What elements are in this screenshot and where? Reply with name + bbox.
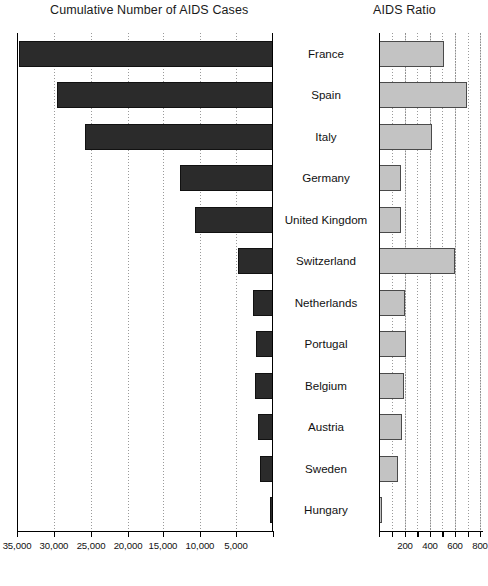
- right-chart-bar: [379, 414, 402, 440]
- country-label: Austria: [276, 421, 376, 433]
- left-chart-tick: [236, 531, 237, 537]
- country-label: Switzerland: [276, 255, 376, 267]
- country-label: France: [276, 48, 376, 60]
- country-label: Italy: [276, 131, 376, 143]
- left-chart-bar: [19, 41, 273, 67]
- left-chart-tick: [163, 531, 164, 537]
- country-label: Netherlands: [276, 297, 376, 309]
- left-chart-bar: [253, 290, 273, 316]
- left-chart-bar: [85, 124, 273, 150]
- left-chart-plot-area: [17, 33, 273, 531]
- left-chart-tick-label: 30,000: [40, 540, 69, 551]
- right-chart-bar: [379, 165, 401, 191]
- right-chart-bar: [379, 82, 467, 108]
- left-chart-x-tick-labels: 35,00030,00025,00020,00015,00010,0005,00…: [17, 540, 273, 560]
- right-chart-tick-label: 600: [447, 540, 463, 551]
- country-label: Hungary: [276, 504, 376, 516]
- right-chart-bar: [379, 248, 455, 274]
- right-gridline-minor: [468, 33, 469, 531]
- right-chart-y-axis: [379, 33, 380, 531]
- left-chart-tick: [128, 531, 129, 537]
- right-chart-bar: [379, 207, 401, 233]
- left-chart-bar: [238, 248, 273, 274]
- left-chart-right-border: [272, 33, 273, 531]
- country-label: Belgium: [276, 380, 376, 392]
- country-label: Sweden: [276, 463, 376, 475]
- right-chart-tick: [455, 531, 456, 537]
- country-label: United Kingdom: [276, 214, 376, 226]
- right-chart-title: AIDS Ratio: [373, 3, 436, 17]
- right-chart-tick-minor: [417, 531, 418, 537]
- right-gridline-major: [480, 33, 481, 531]
- right-chart-bar: [379, 331, 406, 357]
- left-chart-tick-label: 25,000: [77, 540, 106, 551]
- right-chart-tick-minor: [379, 531, 380, 537]
- country-label-column: FranceSpainItalyGermanyUnited KingdomSwi…: [276, 33, 376, 531]
- left-chart-tick-label: 35,000: [3, 540, 32, 551]
- left-gridline: [54, 33, 55, 531]
- right-chart-bar: [379, 41, 444, 67]
- left-chart-bar: [57, 82, 273, 108]
- right-chart-tick-label: 200: [397, 540, 413, 551]
- left-chart-tick: [54, 531, 55, 537]
- country-label: Portugal: [276, 338, 376, 350]
- right-chart-tick: [405, 531, 406, 537]
- country-label: Germany: [276, 172, 376, 184]
- left-chart-x-axis: [17, 531, 273, 532]
- left-chart-tick-label: 20,000: [114, 540, 143, 551]
- right-chart-bar: [379, 290, 405, 316]
- right-chart-tick-minor: [392, 531, 393, 537]
- right-chart-x-tick-labels: 200400600800: [379, 540, 483, 560]
- left-chart-bar: [195, 207, 273, 233]
- left-chart-tick-label: 10,000: [186, 540, 215, 551]
- left-chart-tick: [200, 531, 201, 537]
- left-chart-bar: [256, 331, 273, 357]
- left-chart-tick: [91, 531, 92, 537]
- left-chart-bar: [255, 373, 273, 399]
- right-chart-plot-area: [379, 33, 483, 531]
- right-chart-tick: [480, 531, 481, 537]
- left-chart-tick: [273, 531, 274, 537]
- country-label: Spain: [276, 89, 376, 101]
- left-chart-tick: [17, 531, 18, 537]
- left-chart-y-axis: [17, 33, 18, 531]
- left-chart-bar: [258, 414, 273, 440]
- right-chart-tick-label: 400: [422, 540, 438, 551]
- right-chart-bar: [379, 456, 398, 482]
- right-chart-tick: [430, 531, 431, 537]
- right-chart-tick-minor: [468, 531, 469, 537]
- right-chart-tick-minor: [442, 531, 443, 537]
- left-chart-title: Cumulative Number of AIDS Cases: [50, 3, 248, 17]
- left-chart-tick-label: 5,000: [224, 540, 248, 551]
- left-chart-bar: [180, 165, 273, 191]
- left-chart-tick-label: 15,000: [149, 540, 178, 551]
- right-chart-tick-label: 800: [472, 540, 488, 551]
- right-chart-bar: [379, 124, 432, 150]
- right-chart-bar: [379, 373, 404, 399]
